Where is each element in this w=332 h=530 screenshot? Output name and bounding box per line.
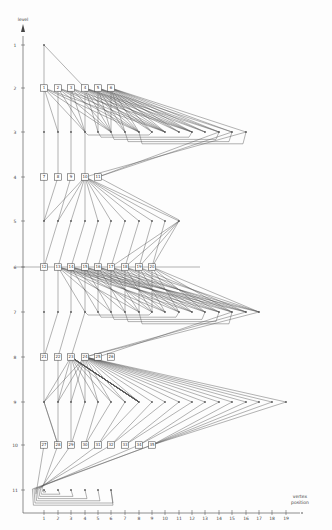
vertex-box-label: 35 [149, 442, 155, 447]
y-tick-label: 4 [14, 175, 17, 180]
edge [44, 88, 85, 132]
edge [111, 221, 125, 267]
vertex-box-label: 16 [95, 264, 101, 269]
x-tick-label: 8 [138, 516, 141, 521]
edge [111, 312, 205, 319]
vertex-dot [70, 220, 72, 222]
vertex-box-label: 21 [41, 354, 47, 359]
vertex-dot [151, 131, 153, 133]
vertex-dot [70, 131, 72, 133]
x-tick-label: 1 [43, 516, 46, 521]
edge [71, 357, 125, 402]
vertex-dot [124, 131, 126, 133]
edge [71, 221, 85, 267]
edge [85, 88, 98, 132]
x-tick-label: 5 [97, 516, 100, 521]
edge [98, 267, 125, 312]
edge [44, 177, 58, 221]
edge [85, 357, 272, 402]
vertex-dot [138, 220, 140, 222]
edge [139, 267, 246, 312]
vertex-dot [84, 131, 86, 133]
x-tick-label: 6 [110, 516, 113, 521]
edge [71, 357, 98, 402]
vertex-box-label: 34 [136, 442, 142, 447]
vertex-dot [97, 489, 99, 491]
edge [98, 312, 232, 357]
vertex-box-label: 27 [41, 442, 47, 447]
edge [85, 177, 179, 221]
edge [98, 88, 179, 132]
edge [85, 357, 152, 402]
vertex-box-label: 4 [84, 85, 87, 90]
edge [85, 357, 205, 402]
edge [98, 177, 179, 220]
vertex-dot [43, 131, 45, 133]
edge [39, 445, 98, 496]
edge [125, 312, 219, 322]
vertex-box-label: 18 [122, 264, 128, 269]
edge [71, 267, 98, 312]
vertex-dot [97, 401, 99, 403]
vertex-dot [151, 401, 153, 403]
edge [98, 221, 111, 267]
vertex-dot [43, 489, 45, 491]
edge [152, 402, 259, 445]
edge [85, 357, 286, 402]
vertex-box-label: 13 [55, 264, 61, 269]
edge [85, 221, 98, 267]
vertex-dot [43, 311, 45, 313]
vertex-dot [218, 311, 220, 313]
vertex-dot [84, 220, 86, 222]
vertex-dot [84, 311, 86, 313]
edge [85, 312, 152, 315]
edge [58, 357, 71, 402]
edge [98, 132, 232, 177]
vertex-dot [57, 489, 59, 491]
edge [152, 402, 246, 445]
edge [85, 177, 139, 221]
x-tick-label: 17 [256, 516, 262, 521]
vertex-dot [70, 489, 72, 491]
vertex-dot [204, 131, 206, 133]
edge [98, 132, 219, 177]
edge [98, 312, 179, 317]
edge [139, 402, 219, 445]
y-tick-label: 10 [12, 443, 18, 448]
vertex-dot [191, 401, 193, 403]
edge [85, 132, 152, 135]
edge [85, 312, 259, 357]
vertex-dot [43, 44, 45, 46]
y-tick-label: 11 [12, 488, 18, 493]
vertex-dot [218, 131, 220, 133]
edge [71, 177, 85, 221]
y-tick-label: 8 [14, 355, 17, 360]
vertex-dot [231, 131, 233, 133]
y-axis-label: level [18, 17, 29, 22]
vertex-dot [138, 131, 140, 133]
vertex-dot [57, 220, 59, 222]
edge [44, 402, 58, 445]
vertex-box-label: 25 [95, 354, 101, 359]
edge [44, 221, 58, 267]
edge [152, 267, 259, 312]
vertex-box-label: 1 [43, 85, 46, 90]
vertex-box-label: 2 [57, 85, 60, 90]
vertex-dot [245, 131, 247, 133]
edge [139, 221, 152, 267]
vertex-dot [218, 401, 220, 403]
vertex-dot [258, 401, 260, 403]
edge [85, 177, 98, 221]
edge [125, 402, 192, 445]
vertex-box-label: 10 [82, 174, 88, 179]
y-axis-arrow-icon [21, 24, 25, 32]
vertex-box-label: 26 [108, 354, 114, 359]
vertex-dot [110, 220, 112, 222]
vertex-dot [110, 401, 112, 403]
edge [111, 402, 152, 445]
edge [111, 267, 165, 312]
vertex-dot [57, 131, 59, 133]
vertex-box-label: 12 [41, 264, 47, 269]
x-tick-label: 14 [216, 516, 222, 521]
y-tick-label: 2 [14, 86, 17, 91]
